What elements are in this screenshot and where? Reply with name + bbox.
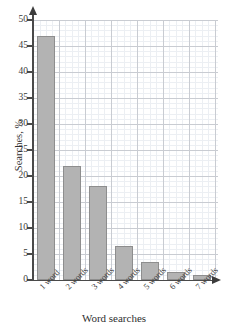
y-axis-tick-label: 50 [6,15,28,25]
plot-area [33,20,218,280]
y-axis-tick-label: 45 [6,41,28,51]
bar-chart: 05101520253035404550 1 word2 words3 word… [0,0,228,329]
bar-slot [33,20,59,280]
bar-slot [163,20,189,280]
y-axis-arrow-icon [29,6,37,15]
bar [89,186,107,280]
y-axis-line [32,14,34,281]
bar [63,166,81,280]
bar-slot [59,20,85,280]
bar-slot [189,20,215,280]
y-axis-tick-label: 0 [6,275,28,285]
bar [37,36,55,280]
y-axis-tick-label: 10 [6,223,28,233]
bar-slot [85,20,111,280]
y-axis-tick-label: 40 [6,67,28,77]
y-axis-tick-label: 5 [6,249,28,259]
y-axis-title: Searches, % [13,91,24,201]
x-axis-title: Word searches [0,312,228,324]
bar-slot [111,20,137,280]
bar-series [33,20,218,280]
bar-slot [137,20,163,280]
